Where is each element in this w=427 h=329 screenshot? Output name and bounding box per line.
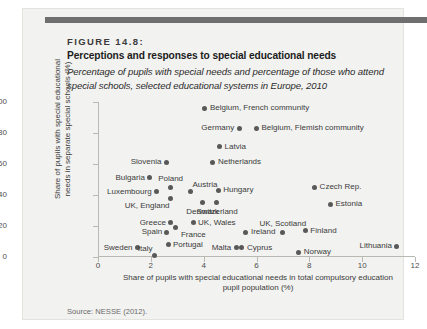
data-point-label: Netherlands — [218, 157, 261, 166]
data-point[interactable] — [394, 244, 399, 249]
data-point-label: Luxembourg — [107, 187, 151, 196]
data-point-label: UK, Wales — [198, 218, 236, 227]
y-tick-mark — [93, 164, 98, 165]
y-tick-label: 100 — [0, 97, 7, 106]
x-tick-mark — [204, 257, 205, 262]
data-point-label: Spain — [142, 227, 162, 236]
data-point-label: Lithuania — [360, 241, 392, 250]
data-point-label: Norway — [304, 247, 331, 256]
y-tick-mark — [93, 226, 98, 227]
data-point-label: Switzerland — [196, 207, 237, 216]
x-tick-mark — [151, 257, 152, 262]
data-point-label: Cyprus — [247, 243, 272, 252]
data-point-label: Portugal — [173, 240, 203, 249]
data-point[interactable] — [166, 242, 171, 247]
data-point-label: UK, England — [125, 201, 170, 210]
data-point[interactable] — [216, 188, 221, 193]
data-point-label: Malta — [212, 243, 232, 252]
figure-top-rule — [45, 17, 427, 23]
x-tick-mark — [257, 257, 258, 262]
data-point[interactable] — [328, 202, 333, 207]
data-point-label: Germany — [201, 123, 234, 132]
data-point[interactable] — [303, 228, 308, 233]
data-point-label: Sweden — [104, 243, 133, 252]
data-point-label: UK, Scotland — [259, 219, 306, 228]
data-point-label: Italy — [138, 244, 153, 253]
data-point-label: Latvia — [225, 142, 246, 151]
y-tick-mark — [93, 195, 98, 196]
x-tick-label: 4 — [194, 261, 214, 270]
data-point-label: Finland — [310, 226, 336, 235]
y-axis-label: Share of pupils with special educational… — [53, 49, 73, 209]
figure-subtitle: Percentage of pupils with special needs … — [67, 65, 407, 92]
y-tick-label: 60 — [0, 159, 7, 168]
y-tick-label: 20 — [0, 221, 7, 230]
x-tick-label: 0 — [88, 261, 108, 270]
data-point-label: France — [181, 230, 206, 239]
y-tick-mark — [93, 102, 98, 103]
figure-source: Source: NESSE (2012). — [67, 307, 147, 316]
x-tick-label: 8 — [299, 261, 319, 270]
data-point[interactable] — [312, 185, 317, 190]
data-point-label: Belgium, French community — [210, 103, 309, 112]
data-point-label: Bulgaria — [116, 173, 145, 182]
x-tick-label: 10 — [352, 261, 372, 270]
data-point[interactable] — [168, 196, 173, 201]
x-tick-label: 2 — [141, 261, 161, 270]
x-tick-mark — [309, 257, 310, 262]
figure-title: Perceptions and responses to special edu… — [67, 50, 336, 61]
data-point-label: Greece — [140, 218, 166, 227]
x-tick-label: 12 — [405, 261, 425, 270]
data-point-label: Estonia — [335, 199, 362, 208]
data-point-label: Czech Rep. — [320, 182, 362, 191]
figure-number: FIGURE 14.8: — [67, 36, 144, 47]
data-point-label: Hungary — [223, 185, 253, 194]
figure-card: FIGURE 14.8: Perceptions and responses t… — [22, 8, 404, 320]
data-point-label: Austria — [192, 180, 217, 189]
data-point[interactable] — [254, 126, 259, 131]
x-axis-label: Share of pupils with special educational… — [118, 273, 398, 293]
data-point[interactable] — [164, 230, 169, 235]
x-tick-mark — [362, 257, 363, 262]
y-tick-mark — [93, 133, 98, 134]
data-point-label: Ireland — [251, 227, 275, 236]
data-point-label: Poland — [158, 174, 183, 183]
data-point[interactable] — [237, 126, 242, 131]
data-point[interactable] — [152, 253, 157, 258]
data-point-label: Slovenia — [131, 157, 162, 166]
y-tick-label: 40 — [0, 190, 7, 199]
x-tick-label: 6 — [247, 261, 267, 270]
x-tick-mark — [415, 257, 416, 262]
y-tick-label: 0 — [0, 252, 7, 261]
x-tick-mark — [98, 257, 99, 262]
data-point[interactable] — [168, 185, 173, 190]
data-point-label: Belgium, Flemish community — [262, 123, 364, 132]
y-tick-label: 80 — [0, 128, 7, 137]
